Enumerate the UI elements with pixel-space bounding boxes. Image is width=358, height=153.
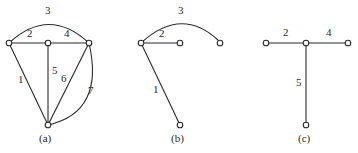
node-right [217,40,223,46]
edge-label-2: 2 [283,26,289,38]
node-middle [45,40,51,46]
edge-label-3: 3 [45,4,51,16]
caption-b: (b) [171,132,184,145]
panel-a-graph: 3 2 4 1 5 6 7 (a) [6,4,94,145]
graph-figure: 3 2 4 1 5 6 7 (a) 3 2 1 (b) 2 4 5 (c) [0,0,358,153]
edge-label-1: 1 [18,73,24,85]
node-middle [177,40,183,46]
edge-label-6: 6 [61,72,67,84]
edge-label-3: 3 [178,4,184,16]
node-bottom [177,122,183,128]
node-middle [303,40,309,46]
edge-6 [48,43,89,125]
edge-label-4: 4 [64,27,70,39]
edge-label-5: 5 [52,64,58,76]
caption-c: (c) [298,132,311,145]
edge-label-4: 4 [326,26,332,38]
edge-label-7: 7 [88,84,94,96]
node-right [345,40,351,46]
edge-1 [141,43,180,125]
node-bottom [303,122,309,128]
node-bottom [45,122,51,128]
edge-label-2: 2 [159,27,165,39]
node-right [86,40,92,46]
node-left [6,40,12,46]
panel-c-graph: 2 4 5 (c) [263,26,351,145]
node-left [138,40,144,46]
node-left [263,40,269,46]
edge-label-2: 2 [27,27,33,39]
edge-label-1: 1 [153,83,159,95]
caption-a: (a) [39,132,52,145]
edge-label-5: 5 [296,76,302,88]
panel-b-graph: 3 2 1 (b) [138,4,223,145]
edge-1 [9,43,48,125]
